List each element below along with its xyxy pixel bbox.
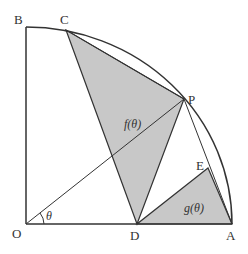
label-f-theta: f(θ) [124, 117, 141, 131]
label-P: P [188, 92, 195, 107]
label-B: B [14, 12, 23, 27]
label-C: C [60, 12, 69, 27]
label-theta: θ [46, 209, 52, 223]
angle-theta-arc [40, 213, 44, 224]
quarter-circle-diagram: B C P E O D A θ f(θ) g(θ) [0, 0, 248, 254]
label-D: D [130, 228, 139, 243]
label-A: A [226, 228, 236, 243]
label-O: O [12, 226, 21, 241]
label-g-theta: g(θ) [184, 201, 204, 215]
label-E: E [196, 158, 204, 173]
